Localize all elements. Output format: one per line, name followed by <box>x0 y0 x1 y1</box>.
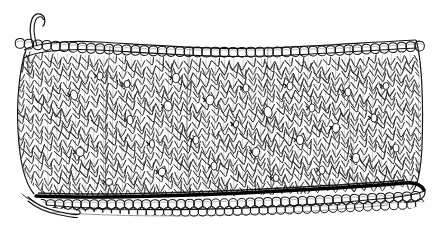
eyelet-hole <box>149 140 155 148</box>
eyelet-hole <box>124 80 131 88</box>
eyelet-hole <box>308 104 315 113</box>
eyelet-hole <box>273 175 279 182</box>
eyelet-hole <box>106 179 113 186</box>
eyelet-hole <box>318 166 325 175</box>
eyelet-hole <box>371 114 378 123</box>
eyelet-hole <box>382 82 389 90</box>
knitted-swatch-illustration <box>0 0 435 231</box>
illustration-canvas: Knitted stockinette swatch with scattere… <box>0 0 435 231</box>
eyelet-hole <box>352 153 360 162</box>
eyelet-hole <box>172 73 180 82</box>
eyelet-hole <box>192 136 199 145</box>
eyelet-hole <box>211 162 218 170</box>
